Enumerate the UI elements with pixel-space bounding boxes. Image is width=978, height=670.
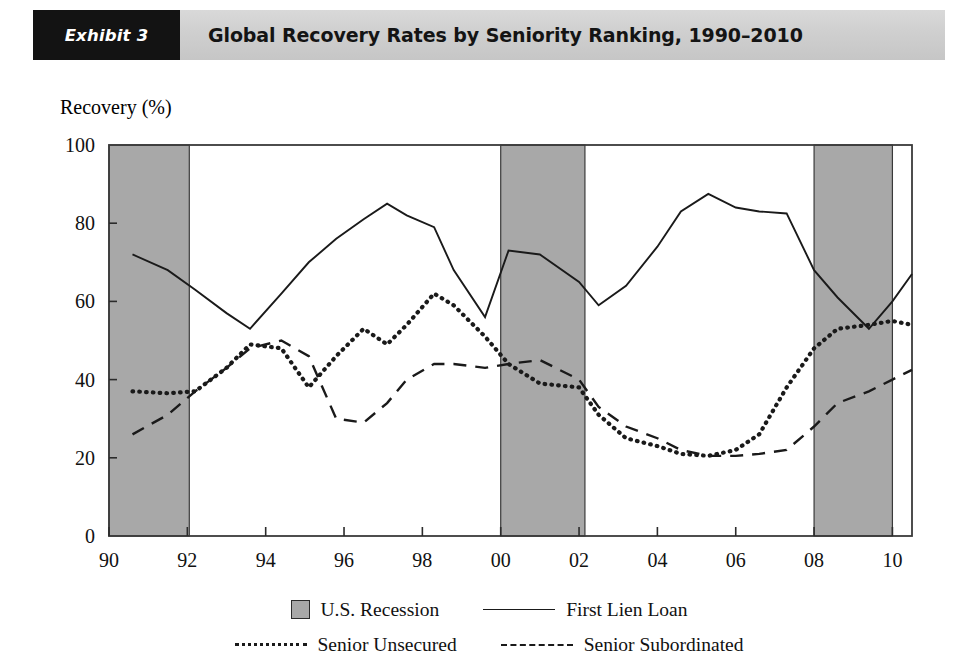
x-tick-label: 98 — [412, 549, 432, 571]
chart-legend: U.S. Recession First Lien Loan Senior Un… — [0, 592, 978, 662]
x-tick-label: 06 — [726, 549, 746, 571]
legend-item-recession: U.S. Recession — [291, 599, 440, 621]
y-axis-tick-labels: 020406080100 — [65, 134, 95, 547]
dotted-line-swatch-icon — [235, 643, 307, 646]
x-tick-label: 04 — [647, 549, 667, 571]
y-tick-label: 80 — [75, 212, 95, 234]
legend-row-2: Senior Unsecured Senior Subordinated — [0, 627, 978, 662]
recession-bands-group — [109, 145, 892, 536]
dashed-line-swatch-icon — [501, 644, 573, 646]
legend-item-senior-unsecured: Senior Unsecured — [235, 634, 457, 656]
y-tick-label: 40 — [75, 369, 95, 391]
plot-border — [109, 145, 912, 536]
legend-label-senior-subordinated: Senior Subordinated — [584, 634, 744, 656]
plot-frame — [109, 145, 912, 536]
legend-label-recession: U.S. Recession — [321, 599, 440, 621]
x-tick-label: 92 — [177, 549, 197, 571]
series-line-senior-subordinated — [133, 341, 913, 456]
x-tick-label: 08 — [804, 549, 824, 571]
exhibit-number-tag: Exhibit 3 — [33, 10, 180, 60]
y-tick-label: 0 — [85, 525, 95, 547]
solid-line-swatch-icon — [483, 609, 555, 610]
legend-item-first-lien-loan: First Lien Loan — [483, 599, 687, 621]
exhibit-title: Global Recovery Rates by Seniority Ranki… — [180, 10, 945, 60]
x-tick-label: 90 — [99, 549, 119, 571]
legend-item-senior-subordinated: Senior Subordinated — [501, 634, 744, 656]
recession-band — [501, 145, 585, 536]
y-tick-label: 100 — [65, 134, 95, 156]
x-tick-label: 02 — [569, 549, 589, 571]
recession-band — [109, 145, 189, 536]
legend-label-first-lien-loan: First Lien Loan — [566, 599, 687, 621]
y-tick-label: 20 — [75, 447, 95, 469]
recession-swatch-icon — [291, 600, 310, 619]
y-axis-title: Recovery (%) — [60, 96, 172, 119]
x-axis-ticks — [109, 527, 892, 536]
x-tick-label: 94 — [256, 549, 276, 571]
series-line-first-lien-loan — [133, 194, 913, 329]
y-tick-label: 60 — [75, 290, 95, 312]
x-tick-label: 96 — [334, 549, 354, 571]
x-tick-label: 10 — [882, 549, 902, 571]
x-axis-tick-labels: 9092949698000204060810 — [99, 549, 902, 571]
series-line-senior-unsecured — [133, 294, 913, 456]
data-series-group — [133, 194, 913, 456]
x-tick-label: 00 — [491, 549, 511, 571]
exhibit-header: Exhibit 3 Global Recovery Rates by Senio… — [33, 10, 945, 60]
legend-row-1: U.S. Recession First Lien Loan — [0, 592, 978, 627]
legend-label-senior-unsecured: Senior Unsecured — [318, 634, 457, 656]
recession-band — [814, 145, 892, 536]
y-axis-ticks — [109, 223, 117, 458]
